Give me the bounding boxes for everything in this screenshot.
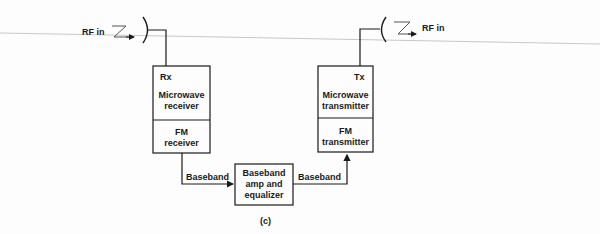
right-rf-in-label: RF in [422, 23, 445, 34]
amp-equalizer-label: Baseband amp and equalizer [235, 168, 293, 201]
label-line: transmitter [318, 101, 373, 112]
left-rf-in-label: RF in [82, 27, 105, 38]
microwave-receiver-label: Microwave receiver [153, 90, 210, 112]
label-line: Microwave [318, 90, 373, 101]
label-line: FM [153, 127, 210, 138]
right-antenna-icon [360, 17, 416, 66]
tx-tag: Tx [354, 72, 365, 83]
label-line: Microwave [153, 90, 210, 101]
rx-tag: Rx [160, 72, 172, 83]
figure-caption: (c) [260, 216, 271, 226]
label-line: Baseband [235, 168, 293, 179]
fm-receiver-label: FM receiver [153, 127, 210, 149]
microwave-transmitter-label: Microwave transmitter [318, 90, 373, 112]
label-line: transmitter [318, 137, 373, 148]
label-line: FM [318, 126, 373, 137]
repeater-block-diagram: RF in RF in Rx Microwave receiver FM rec… [0, 0, 600, 234]
label-line: receiver [153, 138, 210, 149]
left-antenna-icon [112, 17, 166, 66]
baseband-left-label: Baseband [186, 172, 229, 183]
baseband-right-label: Baseband [298, 172, 341, 183]
label-line: equalizer [235, 190, 293, 201]
fm-transmitter-label: FM transmitter [318, 126, 373, 148]
label-line: amp and [235, 179, 293, 190]
label-line: receiver [153, 101, 210, 112]
